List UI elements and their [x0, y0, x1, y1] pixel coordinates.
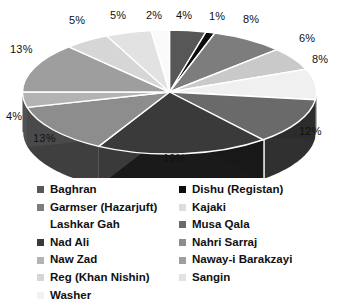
legend-swatch-icon: [179, 204, 186, 211]
legend-item[interactable]: Dishu (Registan): [179, 181, 292, 199]
legend-item-label: Nahri Sarraj: [192, 237, 257, 249]
legend-item-label: Naway-i Barakzayi: [192, 254, 292, 266]
legend-item[interactable]: Naway-i Barakzayi: [179, 251, 292, 269]
legend-swatch-icon: [37, 204, 44, 211]
slice-label-kajaki: 6%: [299, 32, 315, 44]
slice-label-lashkar-gah: 8%: [312, 53, 328, 65]
legend-swatch-icon: [179, 257, 186, 264]
slice-label-nahri-sarraj: 13%: [33, 132, 56, 144]
legend-item[interactable]: Baghran: [37, 181, 157, 199]
legend-item-label: Naw Zad: [50, 254, 97, 266]
pie-chart-plot: 4%1%8%6%8%12%19%13%4%13%5%5%2%: [0, 0, 339, 178]
legend-item-label: Kajaki: [192, 202, 226, 214]
legend-item-label: Nad Ali: [50, 237, 89, 249]
chart-legend: BaghranGarmser (Hazarjuft)Lashkar GahNad…: [0, 181, 339, 299]
slice-label-naway-i-barakzayi: 13%: [10, 43, 33, 55]
slice-label-reg-khan-nishin: 5%: [69, 14, 85, 26]
legend-swatch-icon: [37, 186, 44, 193]
legend-item[interactable]: Sangin: [179, 269, 292, 287]
legend-swatch-icon: [179, 239, 186, 246]
legend-item[interactable]: Washer: [37, 287, 157, 299]
legend-swatch-icon: [37, 239, 44, 246]
legend-swatch-icon: [179, 186, 186, 193]
slice-label-nad-ali: 19%: [163, 152, 186, 164]
legend-item[interactable]: Nad Ali: [37, 234, 157, 252]
slice-label-naw-zad: 4%: [6, 110, 22, 122]
slice-label-dishu-registan: 1%: [209, 10, 225, 22]
legend-item-label: Garmser (Hazarjuft): [50, 202, 157, 214]
slice-label-garmser-hazarjuft: 8%: [243, 13, 259, 25]
pie-top-faces: [23, 30, 317, 154]
pie-chart-figure: 4%1%8%6%8%12%19%13%4%13%5%5%2% BaghranGa…: [0, 0, 339, 299]
legend-swatch-icon: [179, 274, 186, 281]
legend-item-label: Washer: [50, 290, 91, 299]
slice-label-baghran: 4%: [176, 9, 192, 21]
legend-item-label: Lashkar Gah: [50, 219, 120, 231]
legend-item-label: Musa Qala: [192, 219, 250, 231]
legend-swatch-icon: [37, 274, 44, 281]
legend-item[interactable]: Lashkar Gah: [37, 216, 157, 234]
legend-item-label: Dishu (Registan): [192, 184, 283, 196]
legend-swatch-icon: [37, 257, 44, 264]
legend-item[interactable]: Reg (Khan Nishin): [37, 269, 157, 287]
legend-item[interactable]: Garmser (Hazarjuft): [37, 199, 157, 217]
legend-swatch-icon: [37, 221, 44, 228]
legend-item-label: Baghran: [50, 184, 97, 196]
slice-label-washer: 2%: [146, 9, 162, 21]
legend-item[interactable]: Nahri Sarraj: [179, 234, 292, 252]
legend-item-label: Reg (Khan Nishin): [50, 272, 150, 284]
legend-column-left: BaghranGarmser (Hazarjuft)Lashkar GahNad…: [37, 181, 157, 299]
legend-column-right: Dishu (Registan)KajakiMusa QalaNahri Sar…: [179, 181, 292, 287]
legend-item[interactable]: Musa Qala: [179, 216, 292, 234]
legend-item[interactable]: Kajaki: [179, 199, 292, 217]
legend-swatch-icon: [179, 221, 186, 228]
legend-swatch-icon: [37, 292, 44, 299]
slice-label-sangin: 5%: [110, 9, 126, 21]
legend-item-label: Sangin: [192, 272, 230, 284]
legend-item[interactable]: Naw Zad: [37, 251, 157, 269]
slice-label-musa-qala: 12%: [299, 125, 322, 137]
